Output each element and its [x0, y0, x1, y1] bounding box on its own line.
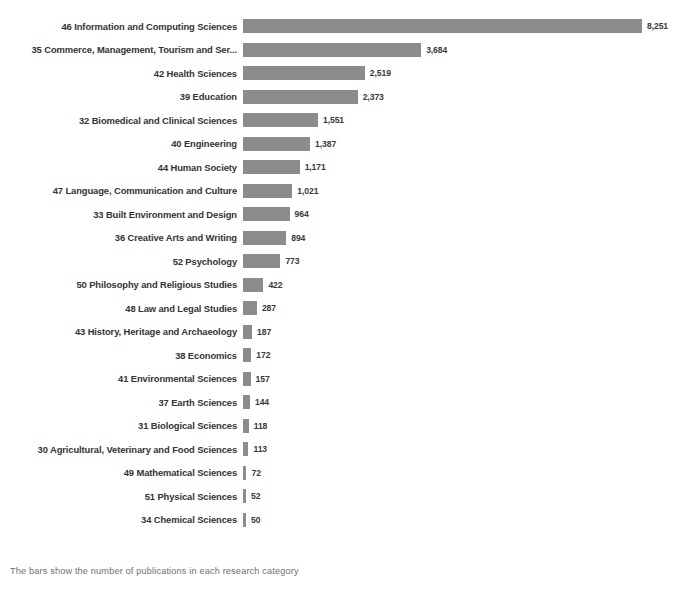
bar-row: 30 Agricultural, Veterinary and Food Sci…: [0, 439, 680, 459]
bar-value-label: 287: [262, 303, 276, 313]
bar-row: 38 Economics172: [0, 345, 680, 365]
bar-track: 72: [243, 463, 680, 483]
bar-track: 172: [243, 345, 680, 365]
category-label: 51 Physical Sciences: [0, 491, 243, 502]
bar-track: 3,684: [243, 40, 680, 60]
bar-value-label: 144: [255, 397, 269, 407]
category-label: 44 Human Society: [0, 162, 243, 173]
bar-row: 36 Creative Arts and Writing894: [0, 228, 680, 248]
bar-track: 773: [243, 251, 680, 271]
bar-track: 422: [243, 275, 680, 295]
bar-track: 964: [243, 204, 680, 224]
bar-value-label: 2,519: [370, 68, 391, 78]
category-label: 32 Biomedical and Clinical Sciences: [0, 115, 243, 126]
chart-plot-area: 46 Information and Computing Sciences8,2…: [0, 8, 680, 528]
bar-value-label: 50: [251, 515, 260, 525]
category-label: 36 Creative Arts and Writing: [0, 232, 243, 243]
bar-value-label: 894: [291, 233, 305, 243]
bar: [243, 513, 246, 527]
bar-value-label: 964: [295, 209, 309, 219]
category-label: 42 Health Sciences: [0, 68, 243, 79]
bar-row: 42 Health Sciences2,519: [0, 63, 680, 83]
category-label: 43 History, Heritage and Archaeology: [0, 326, 243, 337]
category-label: 33 Built Environment and Design: [0, 209, 243, 220]
category-label: 39 Education: [0, 91, 243, 102]
bar-value-label: 1,171: [305, 162, 326, 172]
bar-track: 2,373: [243, 87, 680, 107]
bar-track: 1,021: [243, 181, 680, 201]
bar-value-label: 422: [268, 280, 282, 290]
bar: [243, 419, 249, 433]
bar-track: 1,551: [243, 110, 680, 130]
chart-footnote: The bars show the number of publications…: [10, 566, 299, 576]
bar: [243, 466, 246, 480]
bar-value-label: 8,251: [647, 21, 668, 31]
bar-value-label: 2,373: [363, 92, 384, 102]
bar-row: 46 Information and Computing Sciences8,2…: [0, 16, 680, 36]
bar-row: 43 History, Heritage and Archaeology187: [0, 322, 680, 342]
bar-row: 35 Commerce, Management, Tourism and Ser…: [0, 40, 680, 60]
category-label: 40 Engineering: [0, 138, 243, 149]
bar-value-label: 187: [257, 327, 271, 337]
bar-value-label: 118: [254, 421, 268, 431]
bar-value-label: 1,021: [297, 186, 318, 196]
publications-bar-chart: 46 Information and Computing Sciences8,2…: [0, 0, 680, 603]
bar-row: 34 Chemical Sciences50: [0, 510, 680, 530]
bar-track: 2,519: [243, 63, 680, 83]
bar-track: 8,251: [243, 16, 680, 36]
category-label: 31 Biological Sciences: [0, 420, 243, 431]
bar: [243, 113, 318, 127]
bar-value-label: 157: [256, 374, 270, 384]
bar: [243, 90, 358, 104]
bar-value-label: 113: [253, 444, 267, 454]
bar-row: 31 Biological Sciences118: [0, 416, 680, 436]
category-label: 38 Economics: [0, 350, 243, 361]
bar: [243, 278, 263, 292]
bar-track: 144: [243, 392, 680, 412]
bar-row: 52 Psychology773: [0, 251, 680, 271]
category-label: 48 Law and Legal Studies: [0, 303, 243, 314]
bar-row: 50 Philosophy and Religious Studies422: [0, 275, 680, 295]
bar: [243, 348, 251, 362]
bar: [243, 301, 257, 315]
bar-row: 37 Earth Sciences144: [0, 392, 680, 412]
bar: [243, 207, 290, 221]
category-label: 35 Commerce, Management, Tourism and Ser…: [0, 44, 243, 55]
bar-row: 44 Human Society1,171: [0, 157, 680, 177]
bar-row: 33 Built Environment and Design964: [0, 204, 680, 224]
bar: [243, 184, 292, 198]
category-label: 49 Mathematical Sciences: [0, 467, 243, 478]
bar-track: 1,387: [243, 134, 680, 154]
category-label: 41 Environmental Sciences: [0, 373, 243, 384]
bar-track: 894: [243, 228, 680, 248]
bar: [243, 395, 250, 409]
bar-value-label: 72: [251, 468, 260, 478]
bar: [243, 43, 421, 57]
bar-row: 39 Education2,373: [0, 87, 680, 107]
bar: [243, 231, 286, 245]
bar-row: 51 Physical Sciences52: [0, 486, 680, 506]
bar: [243, 137, 310, 151]
category-label: 46 Information and Computing Sciences: [0, 21, 243, 32]
category-label: 52 Psychology: [0, 256, 243, 267]
bar: [243, 19, 642, 33]
bar: [243, 489, 246, 503]
bar-row: 47 Language, Communication and Culture1,…: [0, 181, 680, 201]
bar-value-label: 172: [256, 350, 270, 360]
bar: [243, 325, 252, 339]
bar-row: 40 Engineering1,387: [0, 134, 680, 154]
bar: [243, 372, 251, 386]
bar: [243, 254, 280, 268]
bar-row: 32 Biomedical and Clinical Sciences1,551: [0, 110, 680, 130]
category-label: 34 Chemical Sciences: [0, 514, 243, 525]
bar-value-label: 1,387: [315, 139, 336, 149]
bar-track: 187: [243, 322, 680, 342]
category-label: 50 Philosophy and Religious Studies: [0, 279, 243, 290]
bar: [243, 442, 248, 456]
bar: [243, 66, 365, 80]
bar: [243, 160, 300, 174]
bar-row: 49 Mathematical Sciences72: [0, 463, 680, 483]
bar-track: 157: [243, 369, 680, 389]
bar-track: 1,171: [243, 157, 680, 177]
bar-track: 50: [243, 510, 680, 530]
